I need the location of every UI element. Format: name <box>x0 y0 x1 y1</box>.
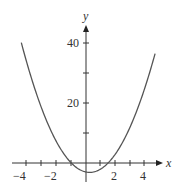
x-axis-label: x <box>165 156 172 170</box>
x-tick-label-4: 4 <box>140 169 146 183</box>
y-tick-label-20: 20 <box>67 96 79 110</box>
x-tick-label-neg2: −2 <box>44 169 57 183</box>
y-axis-arrow-icon <box>83 25 89 32</box>
y-tick-label-40: 40 <box>67 36 79 50</box>
parabola-chart: −4 −2 2 4 40 20 x y <box>0 0 181 190</box>
y-axis-label: y <box>82 9 89 23</box>
parabola-curve <box>21 43 155 173</box>
x-tick-label-2: 2 <box>111 169 117 183</box>
x-tick-label-neg4: −4 <box>13 169 26 183</box>
x-axis-arrow-icon <box>156 160 163 166</box>
